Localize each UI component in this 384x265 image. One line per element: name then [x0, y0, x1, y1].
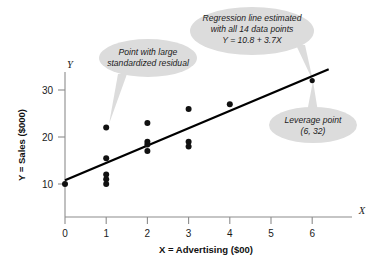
y-tick-label-20: 20	[42, 132, 54, 143]
regression-callout-line-2: with all 14 data points	[211, 24, 294, 34]
x-tick-label-5: 5	[268, 228, 274, 239]
data-point	[144, 120, 150, 126]
regression-callout-tail	[296, 45, 313, 81]
y-axis-title: Y = Sales ($000)	[16, 109, 27, 181]
y-tick-label-30: 30	[42, 85, 54, 96]
leverage-callout-line-1: Leverage point	[285, 115, 342, 125]
data-point	[144, 148, 150, 154]
plot-canvas: Point with large standardized residual R…	[0, 0, 384, 265]
x-tick-label-2: 2	[145, 228, 151, 239]
data-point	[103, 125, 109, 131]
regression-callout-line-1: Regression line estimated	[203, 13, 302, 23]
data-point	[227, 101, 233, 107]
x-tick-label-4: 4	[227, 228, 233, 239]
x-tick-label-3: 3	[186, 228, 192, 239]
data-point-leverage	[310, 78, 315, 83]
scatter-plot-figure: Point with large standardized residual R…	[0, 0, 384, 265]
x-axis-title: X = Advertising ($00)	[159, 244, 253, 255]
x-axis-letter: X	[358, 205, 366, 216]
data-point	[62, 181, 68, 187]
data-point	[186, 106, 192, 112]
leverage-callout-line-2: (6, 32)	[301, 126, 326, 136]
data-point	[103, 181, 109, 187]
y-axis-letter: Y	[67, 59, 74, 70]
x-tick-label-1: 1	[103, 228, 109, 239]
residual-callout-line-1: Point with large	[119, 47, 178, 57]
regression-callout-line-3: Y = 10.8 + 3.7X	[222, 35, 282, 45]
residual-callout-line-2: standardized residual	[107, 58, 190, 68]
leverage-callout-bubble	[269, 107, 357, 143]
data-point	[144, 142, 150, 148]
data-point	[186, 143, 192, 149]
x-tick-label-6: 6	[309, 228, 315, 239]
x-tick-label-0: 0	[62, 228, 68, 239]
data-point	[103, 155, 109, 161]
residual-callout-tail	[109, 74, 127, 124]
y-tick-label-10: 10	[42, 179, 54, 190]
